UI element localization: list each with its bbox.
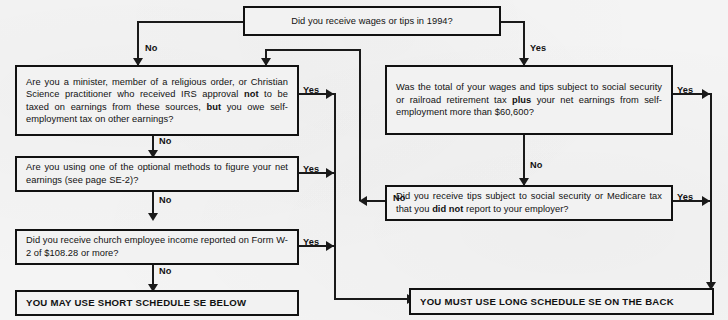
arrowhead-minister-yes (326, 89, 334, 99)
edge-label-total-yes: Yes (677, 85, 693, 95)
node-did-you-receive-wages[interactable]: Did you receive wages or tips in 1994? (243, 6, 501, 36)
connector-wages-to-minister-h (137, 21, 243, 23)
edge-label-tips-no: No (393, 193, 405, 203)
node-text-you-may-use-short-schedule: YOU MAY USE SHORT SCHEDULE SE BELOW (26, 297, 288, 310)
arrowhead-church-yes (326, 241, 334, 251)
node-text-church-employee-income: Did you receive church employee income r… (26, 234, 288, 259)
arrowhead-optional-no (148, 213, 158, 221)
node-optional-methods[interactable]: Are you using one of the optional method… (15, 156, 299, 192)
node-text-did-you-receive-wages: Did you receive wages or tips in 1994? (254, 15, 490, 28)
node-unreported-tips[interactable]: Did you receive tips subject to social s… (385, 185, 673, 221)
connector-left-yes-collector (334, 93, 336, 300)
edge-label-church-no: No (159, 266, 171, 276)
connector-wages-to-total-h (500, 21, 525, 23)
node-you-may-use-short-schedule[interactable]: YOU MAY USE SHORT SCHEDULE SE BELOW (15, 290, 299, 316)
node-text-total-wages-and-tips: Was the total of your wages and tips sub… (396, 81, 662, 119)
connector-left-yes-to-long-h (334, 298, 409, 300)
node-you-must-use-long-schedule[interactable]: YOU MUST USE LONG SCHEDULE SE ON THE BAC… (409, 288, 714, 315)
connector-tips-no-return-h (265, 49, 361, 51)
connector-tips-no-v (359, 49, 361, 201)
connector-right-yes-collector (710, 93, 712, 288)
arrowhead-tips-yes (702, 196, 710, 206)
edge-label-optional-no: No (159, 195, 171, 205)
edge-label-tips-yes: Yes (677, 192, 693, 202)
node-text-optional-methods: Are you using one of the optional method… (26, 161, 288, 186)
arrowhead-optional-yes (326, 168, 334, 178)
node-total-wages-and-tips[interactable]: Was the total of your wages and tips sub… (385, 65, 673, 135)
edge-label-total-no: No (530, 160, 542, 170)
node-minister-religious-order[interactable]: Are you a minister, member of a religiou… (15, 65, 299, 136)
flowchart-canvas: No Yes No Yes Yes Yes No No No No Yes (0, 0, 728, 320)
node-church-employee-income[interactable]: Did you receive church employee income r… (15, 229, 299, 265)
node-text-minister-religious-order: Are you a minister, member of a religiou… (26, 75, 288, 125)
arrowhead-total-yes (702, 89, 710, 99)
edge-label-church-yes: Yes (303, 237, 319, 247)
node-text-unreported-tips: Did you receive tips subject to social s… (396, 190, 662, 215)
edge-label-minister-yes: Yes (303, 85, 319, 95)
edge-label-wages-yes: Yes (530, 43, 546, 53)
edge-label-minister-no: No (159, 136, 171, 146)
node-text-you-must-use-long-schedule: YOU MUST USE LONG SCHEDULE SE ON THE BAC… (420, 295, 703, 308)
edge-label-wages-no: No (145, 43, 157, 53)
edge-label-optional-yes: Yes (303, 164, 319, 174)
